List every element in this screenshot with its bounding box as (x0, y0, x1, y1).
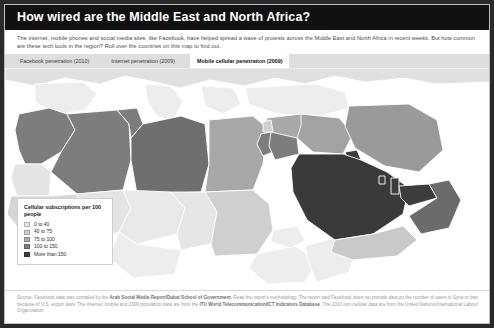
tab-0[interactable]: Facebook penetration (2010) (13, 54, 96, 68)
legend-row-4: More than 150 (24, 251, 106, 258)
country-qatar[interactable] (391, 178, 399, 194)
source-note: Source: Facebook data was compiled by th… (17, 295, 479, 315)
country-western-sahara[interactable] (11, 164, 51, 196)
legend-swatch-0 (24, 222, 30, 227)
legend-title: Cellular subscriptions per 100 people (24, 204, 106, 218)
tab-strip: Facebook penetration (2010)Internet pene… (5, 54, 490, 69)
map-legend: Cellular subscriptions per 100 people 0 … (17, 198, 113, 265)
tab-2[interactable]: Mobile cellular penetration (2009) (190, 54, 289, 68)
screenshot-root: How wired are the Middle East and North … (0, 0, 494, 328)
legend-swatch-1 (24, 230, 30, 235)
legend-items: 0 to 4040 to 7575 to 100100 to 150More t… (24, 221, 106, 258)
source-prefix: Source: Facebook data was compiled by th… (17, 295, 110, 300)
footer: Source: Facebook data was compiled by th… (5, 290, 490, 324)
legend-row-0: 0 to 40 (24, 221, 106, 228)
legend-swatch-2 (24, 237, 30, 242)
infographic-card: How wired are the Middle East and North … (4, 4, 490, 324)
legend-label-2: 75 to 100 (34, 236, 55, 243)
source-bold-itu: ITU World Telecommunication/ICT Indicato… (199, 302, 319, 307)
legend-swatch-3 (24, 244, 30, 249)
legend-label-3: 100 to 150 (34, 243, 58, 250)
legend-row-3: 100 to 150 (24, 243, 106, 250)
legend-label-1: 40 to 75 (34, 228, 52, 235)
legend-row-2: 75 to 100 (24, 236, 106, 243)
deck-text: The internet, mobile phones and social m… (17, 34, 479, 50)
legend-label-4: More than 150 (34, 251, 66, 258)
country-sudan[interactable] (205, 190, 273, 256)
country-lebanon[interactable] (263, 120, 273, 132)
legend-row-1: 40 to 75 (24, 228, 106, 235)
legend-swatch-4 (24, 252, 30, 257)
title-bar: How wired are the Middle East and North … (5, 5, 490, 30)
source-bold-asmr: Arab Social Media Report/Dubai School of… (110, 295, 231, 300)
country-libya[interactable] (131, 116, 209, 194)
legend-label-0: 0 to 40 (34, 221, 49, 228)
tab-1[interactable]: Internet penetration (2009) (104, 54, 182, 68)
country-bahrain[interactable] (379, 176, 385, 184)
page-title: How wired are the Middle East and North … (17, 10, 310, 24)
